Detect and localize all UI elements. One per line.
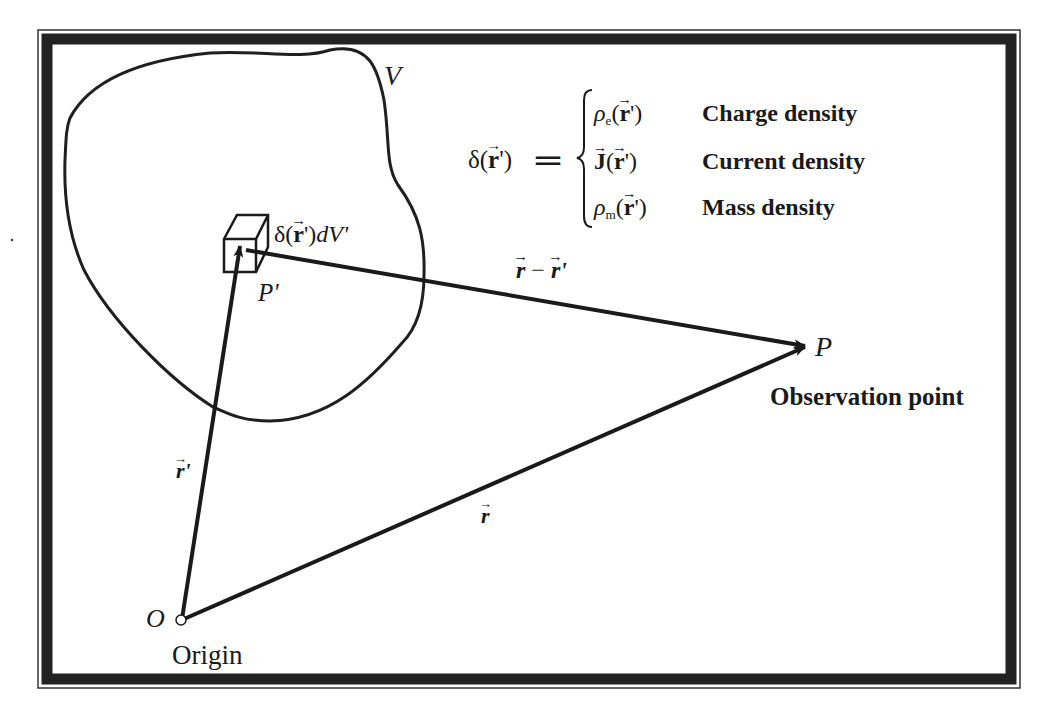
source-vector-label: r' [176,460,191,482]
element-label-vec: r [293,222,304,246]
equation-case-mass: ρm(r')Mass density [594,194,835,223]
stray-dot [11,239,13,241]
equation-lhs: δ(r') [468,147,512,172]
separation-vector-label: r − r' [516,258,567,282]
element-label-prefix: δ( [274,221,293,247]
source-point-label: P' [258,280,279,305]
observation-point-caption: Observation point [770,384,964,409]
vector-r-arrow [184,347,805,619]
eq-case-description: Mass density [702,194,835,220]
equation-case-current: J(r')Current density [594,148,865,175]
equation-equals-sign: ═ [536,143,560,177]
vector-r-prime-arrow [182,246,240,619]
observation-point-label: P [815,333,832,361]
separation-a: r [516,258,525,282]
volume-element-cube [224,215,268,272]
region-label: V [384,62,401,90]
eq-case-symbol: J(r') [594,148,702,175]
separation-b: r [551,258,560,282]
origin-point [176,615,186,625]
equation-case-charge: ρe(r')Charge density [594,100,857,129]
separation-minus: − [525,257,551,283]
element-label-tail: dV' [316,221,348,247]
eq-case-symbol: ρe(r') [594,100,702,129]
equation-brace [577,90,592,227]
eq-case-symbol: ρm(r') [594,194,702,223]
origin-label: O [146,606,165,632]
origin-caption: Origin [172,642,243,669]
eq-case-description: Current density [702,148,865,174]
eq-lhs-prefix: δ( [468,146,488,173]
volume-element-label: δ(r')dV' [274,222,348,246]
source-vector-r: r [176,460,185,482]
eq-lhs-vec: r [488,147,499,172]
field-vector-r: r [481,505,490,527]
eq-case-description: Charge density [702,100,857,126]
field-vector-label: r [481,505,490,527]
